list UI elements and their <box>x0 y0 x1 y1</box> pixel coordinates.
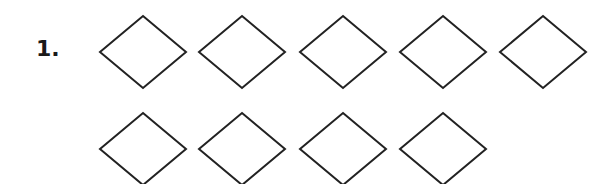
diamond-shape <box>300 113 386 184</box>
diamond-row-1 <box>100 16 586 88</box>
diamond-shape <box>100 113 186 184</box>
diamond-shape <box>199 113 285 184</box>
diamond-shape <box>400 16 486 88</box>
diamond-row-2 <box>100 113 486 184</box>
diamond-shape <box>100 16 186 88</box>
diamond-shape <box>500 16 586 88</box>
diamond-shape <box>199 16 285 88</box>
diamond-shape <box>400 113 486 184</box>
diamond-shape <box>300 16 386 88</box>
diamond-grid <box>0 0 612 184</box>
